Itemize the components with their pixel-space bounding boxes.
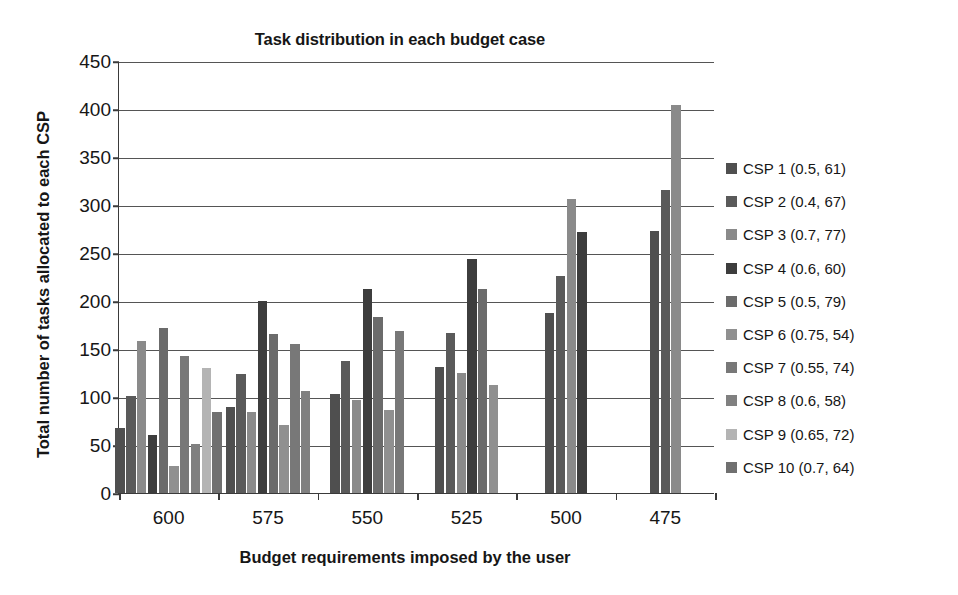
legend-item[interactable]: CSP 5 (0.5, 79) xyxy=(726,285,951,318)
bar-group xyxy=(115,62,222,493)
bar[interactable] xyxy=(180,356,189,493)
plot-area: 050100150200250300350400450 600575550525… xyxy=(118,62,714,494)
bar[interactable] xyxy=(247,412,256,493)
bar[interactable] xyxy=(671,105,680,493)
x-tick-label: 600 xyxy=(153,507,185,529)
bar-group xyxy=(545,62,587,493)
bar[interactable] xyxy=(341,361,350,493)
legend-item-label: CSP 5 (0.5, 79) xyxy=(743,293,846,310)
bar[interactable] xyxy=(661,190,670,493)
y-tick-label: 250 xyxy=(51,243,111,265)
bar[interactable] xyxy=(478,289,487,493)
x-tick-mark xyxy=(318,493,320,500)
bar[interactable] xyxy=(212,412,221,493)
bar[interactable] xyxy=(489,385,498,493)
bar[interactable] xyxy=(236,374,245,493)
x-tick-mark xyxy=(119,493,121,500)
bar[interactable] xyxy=(577,232,586,493)
legend-swatch-icon xyxy=(726,196,737,207)
bar[interactable] xyxy=(258,301,267,493)
x-tick-mark xyxy=(516,493,518,500)
chart-legend: CSP 1 (0.5, 61)CSP 2 (0.4, 67)CSP 3 (0.7… xyxy=(726,152,951,484)
legend-swatch-icon xyxy=(726,462,737,473)
y-tick-label: 100 xyxy=(51,387,111,409)
legend-item-label: CSP 7 (0.55, 74) xyxy=(743,359,854,376)
chart-title: Task distribution in each budget case xyxy=(190,30,610,49)
legend-swatch-icon xyxy=(726,163,737,174)
legend-item[interactable]: CSP 10 (0.7, 64) xyxy=(726,451,951,484)
x-tick-label: 575 xyxy=(252,507,284,529)
x-tick-label: 525 xyxy=(451,507,483,529)
legend-swatch-icon xyxy=(726,229,737,240)
y-tick-label: 450 xyxy=(51,51,111,73)
bar[interactable] xyxy=(384,410,393,493)
legend-item[interactable]: CSP 7 (0.55, 74) xyxy=(726,351,951,384)
y-tick-label: 50 xyxy=(51,435,111,457)
legend-item-label: CSP 2 (0.4, 67) xyxy=(743,193,846,210)
x-tick-mark xyxy=(417,493,419,500)
bar[interactable] xyxy=(301,391,310,493)
bar[interactable] xyxy=(352,400,361,493)
x-tick-mark xyxy=(218,493,220,500)
bar[interactable] xyxy=(363,289,372,493)
bar[interactable] xyxy=(279,425,288,493)
bar[interactable] xyxy=(467,259,476,493)
legend-item-label: CSP 1 (0.5, 61) xyxy=(743,160,846,177)
x-tick-mark xyxy=(616,493,618,500)
y-axis-title: Total number of tasks allocated to each … xyxy=(34,70,53,500)
legend-item[interactable]: CSP 6 (0.75, 54) xyxy=(726,318,951,351)
y-tick-label: 350 xyxy=(51,147,111,169)
bar[interactable] xyxy=(650,231,659,493)
legend-swatch-icon xyxy=(726,395,737,406)
legend-item-label: CSP 6 (0.75, 54) xyxy=(743,326,854,343)
legend-item[interactable]: CSP 2 (0.4, 67) xyxy=(726,185,951,218)
bar[interactable] xyxy=(435,367,444,493)
bar[interactable] xyxy=(115,428,124,493)
y-tick-label: 0 xyxy=(51,483,111,505)
legend-item[interactable]: CSP 3 (0.7, 77) xyxy=(726,218,951,251)
legend-item[interactable]: CSP 8 (0.6, 58) xyxy=(726,384,951,417)
bar[interactable] xyxy=(290,344,299,493)
bar[interactable] xyxy=(159,328,168,493)
legend-item-label: CSP 3 (0.7, 77) xyxy=(743,226,846,243)
y-tick-label: 400 xyxy=(51,99,111,121)
x-tick-mark xyxy=(715,493,717,500)
legend-item-label: CSP 10 (0.7, 64) xyxy=(743,459,854,476)
legend-item[interactable]: CSP 4 (0.6, 60) xyxy=(726,252,951,285)
legend-item-label: CSP 9 (0.65, 72) xyxy=(743,426,854,443)
y-tick-label: 150 xyxy=(51,339,111,361)
bar[interactable] xyxy=(545,313,554,493)
bar[interactable] xyxy=(126,396,135,493)
x-tick-label: 500 xyxy=(550,507,582,529)
legend-swatch-icon xyxy=(726,263,737,274)
bar-group xyxy=(650,62,681,493)
bar[interactable] xyxy=(567,199,576,493)
y-tick-label: 300 xyxy=(51,195,111,217)
x-axis-title: Budget requirements imposed by the user xyxy=(95,548,715,567)
bar[interactable] xyxy=(148,435,157,493)
bar[interactable] xyxy=(269,334,278,493)
bar[interactable] xyxy=(446,333,455,493)
bar-group xyxy=(226,62,311,493)
x-tick-label: 475 xyxy=(649,507,681,529)
legend-item[interactable]: CSP 9 (0.65, 72) xyxy=(726,418,951,451)
legend-swatch-icon xyxy=(726,429,737,440)
y-tick-label: 200 xyxy=(51,291,111,313)
legend-swatch-icon xyxy=(726,362,737,373)
bar-group xyxy=(435,62,498,493)
bar[interactable] xyxy=(169,466,178,493)
bar[interactable] xyxy=(330,394,339,493)
bar[interactable] xyxy=(556,276,565,493)
bar[interactable] xyxy=(373,317,382,493)
bar[interactable] xyxy=(202,368,211,493)
bar[interactable] xyxy=(457,373,466,493)
bar[interactable] xyxy=(395,331,404,493)
bar[interactable] xyxy=(137,341,146,493)
bar[interactable] xyxy=(226,407,235,493)
legend-swatch-icon xyxy=(726,296,737,307)
x-tick-label: 550 xyxy=(351,507,383,529)
legend-item-label: CSP 4 (0.6, 60) xyxy=(743,260,846,277)
bar[interactable] xyxy=(191,444,200,493)
bar-group xyxy=(330,62,404,493)
legend-item[interactable]: CSP 1 (0.5, 61) xyxy=(726,152,951,185)
